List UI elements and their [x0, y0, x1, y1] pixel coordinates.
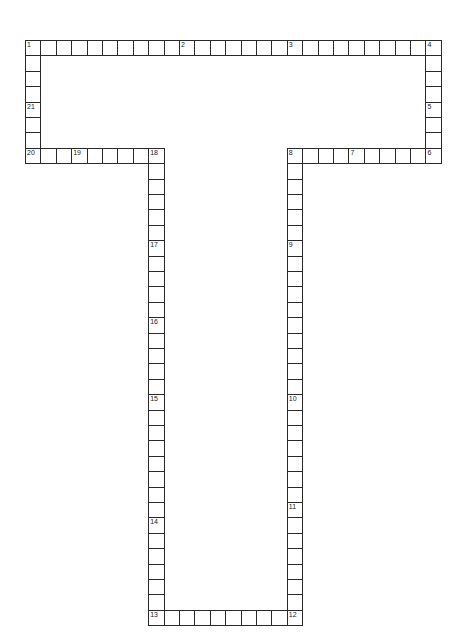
- crossword-cell[interactable]: [241, 40, 257, 56]
- crossword-cell[interactable]: [87, 148, 103, 164]
- crossword-cell[interactable]: [364, 40, 380, 56]
- crossword-cell[interactable]: [287, 440, 303, 456]
- crossword-cell[interactable]: [148, 348, 164, 364]
- crossword-cell[interactable]: 16: [148, 317, 164, 333]
- crossword-cell[interactable]: [287, 548, 303, 564]
- crossword-cell[interactable]: [287, 579, 303, 595]
- crossword-cell[interactable]: [40, 40, 56, 56]
- crossword-cell[interactable]: [148, 179, 164, 195]
- crossword-cell[interactable]: [287, 533, 303, 549]
- crossword-cell[interactable]: [271, 40, 287, 56]
- crossword-cell[interactable]: [287, 517, 303, 533]
- crossword-cell[interactable]: [395, 40, 411, 56]
- crossword-cell[interactable]: [425, 86, 441, 102]
- crossword-cell[interactable]: [287, 594, 303, 610]
- crossword-cell[interactable]: [333, 40, 349, 56]
- crossword-cell[interactable]: [410, 148, 426, 164]
- crossword-cell[interactable]: [164, 610, 180, 626]
- crossword-cell[interactable]: [379, 40, 395, 56]
- crossword-cell[interactable]: [102, 40, 118, 56]
- crossword-cell[interactable]: [410, 40, 426, 56]
- crossword-cell[interactable]: [148, 410, 164, 426]
- crossword-cell[interactable]: [133, 148, 149, 164]
- crossword-cell[interactable]: [148, 194, 164, 210]
- crossword-cell[interactable]: [287, 179, 303, 195]
- crossword-cell[interactable]: [271, 610, 287, 626]
- crossword-cell[interactable]: [287, 348, 303, 364]
- crossword-cell[interactable]: 14: [148, 517, 164, 533]
- crossword-cell[interactable]: [117, 148, 133, 164]
- crossword-cell[interactable]: 18: [148, 148, 164, 164]
- crossword-cell[interactable]: [425, 71, 441, 87]
- crossword-cell[interactable]: 21: [25, 102, 41, 118]
- crossword-cell[interactable]: [179, 610, 195, 626]
- crossword-cell[interactable]: [25, 132, 41, 148]
- crossword-cell[interactable]: [148, 225, 164, 241]
- crossword-cell[interactable]: [225, 610, 241, 626]
- crossword-cell[interactable]: [395, 148, 411, 164]
- crossword-cell[interactable]: [318, 40, 334, 56]
- crossword-cell[interactable]: [379, 148, 395, 164]
- crossword-cell[interactable]: [225, 40, 241, 56]
- crossword-cell[interactable]: [71, 40, 87, 56]
- crossword-cell[interactable]: [287, 363, 303, 379]
- crossword-cell[interactable]: [302, 148, 318, 164]
- crossword-cell[interactable]: [287, 564, 303, 580]
- crossword-cell[interactable]: [56, 40, 72, 56]
- crossword-cell[interactable]: [210, 40, 226, 56]
- crossword-cell[interactable]: [148, 548, 164, 564]
- crossword-cell[interactable]: [287, 425, 303, 441]
- crossword-cell[interactable]: 12: [287, 610, 303, 626]
- crossword-cell[interactable]: [287, 410, 303, 426]
- crossword-cell[interactable]: [148, 256, 164, 272]
- crossword-cell[interactable]: [348, 40, 364, 56]
- crossword-cell[interactable]: [117, 40, 133, 56]
- crossword-cell[interactable]: [287, 286, 303, 302]
- crossword-cell[interactable]: 6: [425, 148, 441, 164]
- crossword-cell[interactable]: [194, 40, 210, 56]
- crossword-cell[interactable]: [56, 148, 72, 164]
- crossword-cell[interactable]: 8: [287, 148, 303, 164]
- crossword-cell[interactable]: [148, 456, 164, 472]
- crossword-cell[interactable]: [364, 148, 380, 164]
- crossword-cell[interactable]: [148, 594, 164, 610]
- crossword-cell[interactable]: 13: [148, 610, 164, 626]
- crossword-cell[interactable]: 4: [425, 40, 441, 56]
- crossword-cell[interactable]: [148, 379, 164, 395]
- crossword-cell[interactable]: [148, 471, 164, 487]
- crossword-cell[interactable]: [148, 40, 164, 56]
- crossword-cell[interactable]: [148, 487, 164, 503]
- crossword-cell[interactable]: [287, 271, 303, 287]
- crossword-cell[interactable]: [287, 302, 303, 318]
- crossword-cell[interactable]: 1: [25, 40, 41, 56]
- crossword-cell[interactable]: 17: [148, 240, 164, 256]
- crossword-cell[interactable]: [210, 610, 226, 626]
- crossword-cell[interactable]: [287, 471, 303, 487]
- crossword-cell[interactable]: [148, 286, 164, 302]
- crossword-cell[interactable]: [25, 55, 41, 71]
- crossword-cell[interactable]: [287, 487, 303, 503]
- crossword-cell[interactable]: [287, 225, 303, 241]
- crossword-cell[interactable]: 15: [148, 394, 164, 410]
- crossword-cell[interactable]: [148, 363, 164, 379]
- crossword-cell[interactable]: [87, 40, 103, 56]
- crossword-cell[interactable]: [287, 209, 303, 225]
- crossword-cell[interactable]: 11: [287, 502, 303, 518]
- crossword-cell[interactable]: [318, 148, 334, 164]
- crossword-cell[interactable]: 10: [287, 394, 303, 410]
- crossword-cell[interactable]: [25, 117, 41, 133]
- crossword-cell[interactable]: [148, 209, 164, 225]
- crossword-cell[interactable]: 3: [287, 40, 303, 56]
- crossword-cell[interactable]: [425, 55, 441, 71]
- crossword-cell[interactable]: 9: [287, 240, 303, 256]
- crossword-cell[interactable]: [256, 610, 272, 626]
- crossword-cell[interactable]: [148, 533, 164, 549]
- crossword-cell[interactable]: [287, 379, 303, 395]
- crossword-cell[interactable]: [148, 564, 164, 580]
- crossword-cell[interactable]: [287, 194, 303, 210]
- crossword-cell[interactable]: [25, 71, 41, 87]
- crossword-cell[interactable]: [148, 333, 164, 349]
- crossword-cell[interactable]: [256, 40, 272, 56]
- crossword-cell[interactable]: 20: [25, 148, 41, 164]
- crossword-cell[interactable]: [148, 440, 164, 456]
